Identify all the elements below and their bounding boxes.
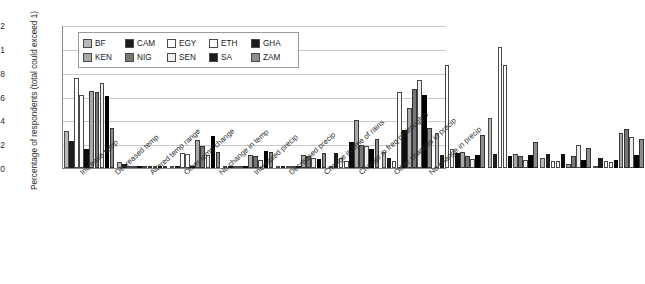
legend-swatch-icon <box>209 53 218 62</box>
legend-swatch-icon <box>167 53 176 62</box>
legend-swatch-icon <box>251 53 260 62</box>
bar <box>498 47 503 168</box>
legend-label: CAM <box>137 39 155 48</box>
y-tick-label: 0.8 <box>0 69 5 79</box>
bar <box>243 166 248 168</box>
bar <box>523 160 528 168</box>
bar <box>142 166 147 168</box>
bar <box>533 142 538 168</box>
legend-item-gha[interactable]: GHA <box>251 39 293 48</box>
bar <box>624 129 629 168</box>
bar <box>238 166 243 168</box>
bar <box>576 145 581 168</box>
bar <box>69 141 74 168</box>
bar <box>470 159 475 168</box>
legend-item-bf[interactable]: BF <box>83 39 125 48</box>
legend-item-egy[interactable]: EGY <box>167 39 209 48</box>
legend-item-cam[interactable]: CAM <box>125 39 167 48</box>
bar <box>74 78 79 168</box>
bar <box>480 135 485 168</box>
bar <box>460 152 465 168</box>
bar <box>604 161 609 168</box>
legend-swatch-icon <box>83 53 92 62</box>
y-tick-label: 1 <box>0 45 5 55</box>
y-tick-label: 1.2 <box>0 21 5 31</box>
y-tick-label: 0.6 <box>0 93 5 103</box>
legend-label: KEN <box>95 53 112 62</box>
legend-swatch-icon <box>167 39 176 48</box>
bar-group <box>539 26 592 168</box>
bar <box>561 154 566 168</box>
bar <box>629 137 634 168</box>
legend-row: KENNIGSENSAZAM <box>83 50 293 64</box>
legend-label: EGY <box>179 39 196 48</box>
legend-swatch-icon <box>209 39 218 48</box>
bar-group <box>487 26 540 168</box>
bar <box>639 139 644 168</box>
legend-item-ken[interactable]: KEN <box>83 53 125 62</box>
bar <box>281 166 286 168</box>
bar <box>276 166 281 168</box>
legend-item-sa[interactable]: SA <box>209 53 251 62</box>
bar <box>387 158 392 168</box>
bar <box>528 155 533 168</box>
bar <box>609 162 614 168</box>
bar <box>465 156 470 168</box>
y-axis-title: Percentage of respondents (total could e… <box>30 1 39 201</box>
bar-group <box>592 26 645 168</box>
legend-label: NIG <box>137 53 152 62</box>
bar <box>137 166 142 168</box>
bar <box>175 166 180 168</box>
legend-label: SEN <box>179 53 196 62</box>
bar <box>488 118 493 168</box>
y-tick-label: 0.4 <box>0 116 5 126</box>
bar <box>571 156 576 168</box>
bar <box>344 161 349 168</box>
legend-swatch-icon <box>251 39 260 48</box>
bar <box>422 95 427 169</box>
y-tick-label: 0.2 <box>0 140 5 150</box>
bar <box>503 65 508 168</box>
legend-item-sen[interactable]: SEN <box>167 53 209 62</box>
legend-item-zam[interactable]: ZAM <box>251 53 293 62</box>
bar <box>493 154 498 168</box>
bar <box>248 155 253 168</box>
bar <box>556 161 561 168</box>
y-tick-label: 0 <box>0 164 5 174</box>
legend-row: BFCAMEGYETHGHA <box>83 36 293 50</box>
bar <box>581 160 586 168</box>
legend-item-eth[interactable]: ETH <box>209 39 251 48</box>
bar <box>475 155 480 168</box>
bar <box>170 166 175 168</box>
bar <box>551 161 556 168</box>
bar <box>317 159 322 168</box>
legend-swatch-icon <box>83 39 92 48</box>
bar <box>634 155 639 168</box>
legend-item-nig[interactable]: NIG <box>125 53 167 62</box>
bar <box>180 153 185 168</box>
legend-label: BF <box>95 39 105 48</box>
bar <box>79 95 84 169</box>
bar <box>132 166 137 168</box>
bar <box>614 160 619 168</box>
bar <box>566 164 571 168</box>
legend-swatch-icon <box>125 53 134 62</box>
bar <box>586 148 591 168</box>
bar <box>546 154 551 168</box>
chart-legend: BFCAMEGYETHGHAKENNIGSENSAZAM <box>78 32 299 68</box>
bar <box>593 166 598 168</box>
bar <box>540 158 545 168</box>
bar <box>598 158 603 168</box>
bar <box>518 156 523 168</box>
bar <box>216 152 221 168</box>
legend-label: SA <box>221 53 232 62</box>
bar <box>619 133 624 168</box>
legend-swatch-icon <box>125 39 134 48</box>
legend-label: GHA <box>263 39 281 48</box>
bar <box>513 154 518 168</box>
bar <box>508 156 513 168</box>
x-axis-tick-labels: Increase tempDecreased tempAltered temp … <box>62 170 446 282</box>
legend-label: ZAM <box>263 53 280 62</box>
bar <box>64 131 69 168</box>
